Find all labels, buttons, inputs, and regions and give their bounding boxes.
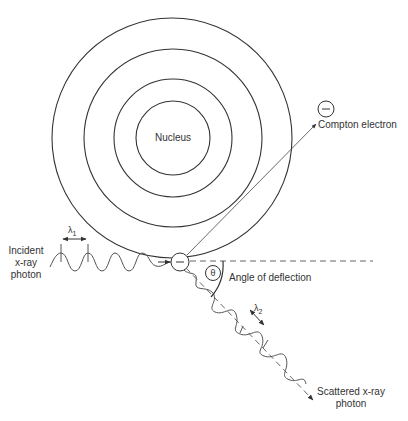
- incident-label-line1: Incident: [4, 245, 48, 257]
- scattered-label-line1: Scattered x-ray: [312, 386, 390, 398]
- nucleus-label: Nucleus: [150, 132, 196, 144]
- lambda2-tick-upper: [240, 326, 243, 333]
- theta-label: θ: [207, 267, 219, 279]
- lambda2-tick-lower: [263, 340, 268, 348]
- scattered-label-line2: photon: [312, 398, 390, 410]
- incident-label-line3: photon: [4, 269, 48, 281]
- lambda1-label: λ1: [68, 224, 76, 240]
- scattered-wave: [184, 270, 306, 384]
- compton-scattering-diagram: [0, 0, 408, 421]
- compton-electron-label: Compton electron: [318, 119, 397, 131]
- incident-label-line2: x-ray: [4, 257, 48, 269]
- scattered-photon-label: Scattered x-ray photon: [312, 386, 390, 410]
- incident-photon-label: Incident x-ray photon: [4, 245, 48, 281]
- incident-wave: [50, 253, 171, 271]
- lambda2-label: λ2: [254, 302, 262, 318]
- compton-electron-path: [187, 124, 316, 255]
- angle-of-deflection-label: Angle of deflection: [229, 272, 311, 284]
